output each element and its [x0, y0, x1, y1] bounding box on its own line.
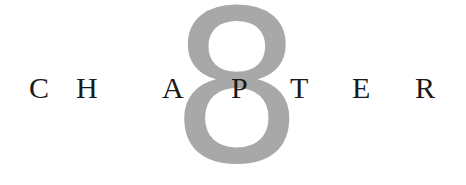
chapter-letter-p: P	[231, 73, 248, 103]
chapter-letter-a: A	[162, 73, 184, 103]
chapter-letter-r: R	[415, 73, 435, 103]
chapter-heading: 8 C H A P T E R	[0, 0, 466, 185]
chapter-letter-t: T	[290, 73, 308, 103]
chapter-letter-e: E	[352, 73, 370, 103]
chapter-letter-c: C	[29, 73, 49, 103]
chapter-letter-h: H	[76, 73, 98, 103]
